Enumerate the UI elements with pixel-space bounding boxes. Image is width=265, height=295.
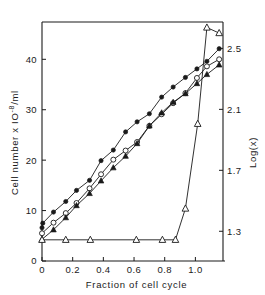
data-point-open-triangle (182, 205, 189, 211)
data-point-open-triangle (204, 24, 211, 30)
data-point-open-circle (111, 157, 116, 162)
y2-tick-label: 2.5 (227, 43, 241, 54)
data-point-filled-circle (160, 95, 164, 99)
y2-tick-label: 2.1 (227, 104, 241, 115)
x-tick-label: 0.8 (158, 264, 172, 275)
data-point-open-circle (204, 64, 209, 69)
data-point-filled-circle (135, 120, 139, 124)
series-line-open-circles-middle (42, 59, 219, 233)
data-point-filled-circle (171, 85, 175, 89)
data-point-filled-circle (183, 75, 187, 79)
data-point-open-circle (217, 57, 222, 62)
data-point-open-triangle (159, 236, 166, 242)
cell-cycle-chart: 0102030401.31.72.12.500.20.40.60.81.0Fra… (0, 0, 265, 295)
data-point-open-circle (40, 231, 45, 236)
data-point-open-triangle (133, 236, 140, 242)
data-point-open-circle (99, 172, 104, 177)
figure-container: 0102030401.31.72.12.500.20.40.60.81.0Fra… (0, 0, 265, 295)
y2-axis-title-text: Log(x) (247, 137, 258, 168)
y-tick-label: 20 (26, 155, 37, 166)
x-tick-label: 0.2 (65, 264, 79, 275)
x-tick-label: 0.4 (96, 264, 110, 275)
y2-axis-title: Log(x) (247, 137, 258, 168)
data-point-filled-circle (123, 130, 127, 134)
x-tick-label: 1.0 (188, 264, 202, 275)
y-axis-title-prefix: Cell number x IO (9, 112, 20, 194)
y-tick-label: 0 (31, 255, 37, 266)
data-point-filled-circle (195, 67, 199, 71)
data-point-open-circle (123, 148, 128, 153)
data-point-open-triangle (216, 29, 223, 35)
y-axis-title: Cell number x IO-8/ml (8, 90, 20, 195)
data-point-filled-circle (147, 112, 151, 116)
data-point-open-triangle (87, 236, 94, 242)
data-point-filled-circle (99, 159, 103, 163)
y-axis-title-exponent: -8 (8, 105, 15, 113)
data-point-filled-circle (111, 148, 115, 152)
data-point-filled-circle (64, 199, 68, 203)
y2-tick-label: 1.3 (227, 226, 241, 237)
data-point-filled-circle (205, 59, 209, 63)
x-tick-label: 0.6 (127, 264, 141, 275)
data-point-filled-circle (41, 221, 45, 225)
y-axis-title-suffix: /ml (9, 90, 20, 105)
data-point-filled-circle (217, 47, 221, 51)
y-tick-label: 40 (26, 54, 37, 65)
x-axis-title: Fraction of cell cycle (86, 279, 187, 290)
series-filled-circles-upper (40, 47, 221, 230)
data-point-filled-triangle (216, 62, 222, 67)
series-line-filled-circles-upper (42, 49, 219, 228)
data-point-filled-circle (74, 188, 78, 192)
data-point-filled-circle (51, 210, 55, 214)
data-point-filled-circle (40, 226, 44, 230)
data-point-open-triangle (172, 236, 179, 242)
data-point-open-triangle (62, 236, 69, 242)
data-point-filled-circle (87, 178, 91, 182)
x-tick-label: 0 (39, 264, 45, 275)
data-point-open-circle (194, 75, 199, 80)
y-tick-label: 10 (26, 205, 37, 216)
data-point-filled-triangle (204, 71, 210, 76)
series-line-open-triangles-step (42, 28, 219, 240)
data-point-open-circle (51, 220, 56, 225)
data-point-open-triangle (194, 120, 201, 126)
y2-tick-label: 1.7 (227, 165, 241, 176)
y-axis-title-text: Cell number x IO-8/ml (8, 90, 20, 195)
y-tick-label: 30 (26, 104, 37, 115)
series-open-triangles-step (39, 24, 223, 242)
